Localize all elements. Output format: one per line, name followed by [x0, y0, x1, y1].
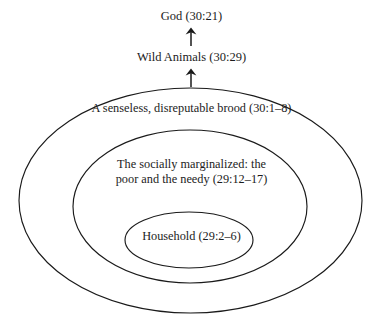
- middle-ellipse: [73, 130, 307, 283]
- label-middle-ring: The socially marginalized: the poor and …: [0, 157, 383, 188]
- outer-ellipse: [19, 88, 362, 313]
- label-middle-ring-line-2: poor and the needy (29:12–17): [0, 172, 383, 187]
- up-arrow-icon-brood-to-wild-animals: [179, 67, 203, 87]
- label-god: God (30:21): [0, 9, 383, 25]
- label-outer-ring: A senseless, disreputable brood (30:1–8): [0, 101, 383, 116]
- label-inner-ring: Household (29:2–6): [0, 229, 383, 244]
- up-arrow-icon-wild-animals-to-god: [179, 26, 203, 46]
- label-middle-ring-line-1: The socially marginalized: the: [0, 157, 383, 172]
- label-wild-animals: Wild Animals (30:29): [0, 50, 383, 66]
- concentric-circles-diagram: God (30:21) Wild Animals (30:29) A sense…: [0, 0, 383, 334]
